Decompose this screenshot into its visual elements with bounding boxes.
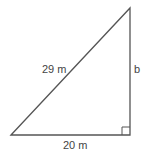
right-triangle-diagram: 29 m b 20 m [0, 0, 147, 154]
right-angle-marker [122, 127, 130, 135]
hypotenuse-label: 29 m [42, 63, 66, 75]
base-label: 20 m [63, 139, 87, 151]
triangle [11, 8, 130, 135]
vertical-side-label: b [134, 63, 140, 75]
